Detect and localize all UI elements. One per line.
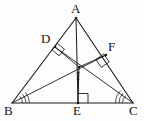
side-AC [76,18,133,103]
vertex-label-B: B [4,104,13,117]
vertex-dot-F [105,54,107,56]
vertex-dot-A [75,17,78,20]
inradius-ID [55,47,79,67]
vertex-dots [54,17,107,105]
vertex-dot-I [78,66,80,68]
vertex-label-A: A [71,2,80,15]
bisector-BF [12,55,106,103]
angle-arcs-B [20,92,30,103]
right-angle-mark-E [78,94,88,104]
geometry-canvas [0,0,144,121]
vertex-label-I: I [76,70,80,82]
geometry-figure: A B C D E F I [0,0,144,121]
inradius-IF [79,55,106,67]
cevian-AE [76,18,78,103]
angle-arcs-C [116,91,126,103]
vertex-label-E: E [73,104,81,117]
vertex-label-D: D [41,32,50,45]
vertex-dot-D [54,46,56,48]
vertex-label-F: F [108,40,115,53]
vertex-label-C: C [129,104,138,117]
